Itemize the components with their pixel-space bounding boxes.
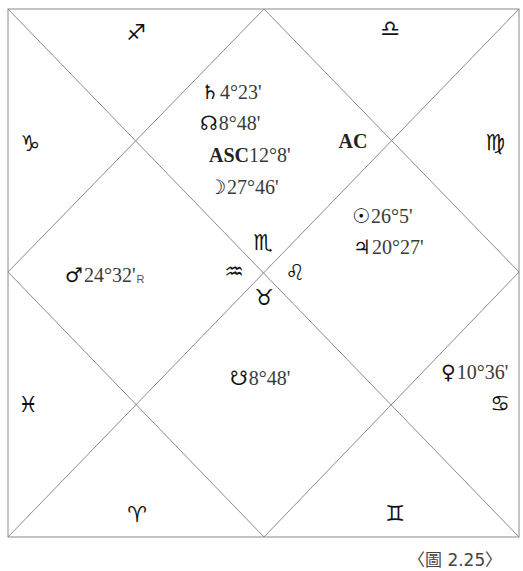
figure-caption: 〈圖 2.25〉 — [408, 546, 502, 571]
moon-icon: ☽ — [208, 175, 226, 199]
leo-sign-icon: ♌ — [285, 262, 305, 284]
rahu-entry: ☊8°48' — [200, 113, 260, 133]
mars-position: 24°32' — [84, 264, 136, 286]
aries-sign-icon: ♈ — [127, 504, 147, 526]
rahu-position: 8°48' — [219, 112, 261, 134]
ketu-icon: ☋ — [230, 366, 248, 390]
ascendant-entry: ASC12°8' — [209, 145, 291, 165]
jupiter-icon: ♃ — [353, 235, 371, 259]
sagittarius-sign-icon: ♐ — [126, 22, 146, 44]
moon-entry: ☽27°46' — [208, 177, 279, 197]
ac-label: AC — [339, 130, 368, 153]
venus-entry: ♀10°36' — [441, 362, 508, 382]
taurus-sign-icon: ♉ — [254, 287, 274, 309]
venus-position: 10°36' — [457, 361, 509, 383]
saturn-entry: ♄4°23' — [201, 82, 262, 102]
libra-sign-icon: ♎ — [380, 18, 400, 40]
mars-entry: ♂24°32'R — [65, 265, 145, 285]
moon-position: 27°46' — [227, 176, 279, 198]
rahu-icon: ☊ — [200, 111, 218, 135]
ketu-entry: ☋8°48' — [230, 368, 290, 388]
retrograde-marker: R — [137, 273, 145, 285]
cancer-sign-icon: ♋ — [490, 393, 510, 415]
aquarius-sign-icon: ♒ — [224, 261, 244, 283]
scorpio-sign-icon: ♏ — [253, 232, 273, 254]
jupiter-position: 20°27' — [372, 236, 424, 258]
sun-icon: ☉ — [352, 204, 370, 228]
saturn-icon: ♄ — [201, 80, 219, 104]
gemini-sign-icon: ♊ — [385, 503, 405, 525]
venus-icon: ♀ — [441, 360, 456, 384]
saturn-position: 4°23' — [220, 81, 262, 103]
asc-label: ASC — [209, 144, 249, 166]
sun-entry: ☉26°5' — [352, 206, 413, 226]
jupiter-entry: ♃20°27' — [353, 237, 424, 257]
sun-position: 26°5' — [371, 205, 413, 227]
virgo-sign-icon: ♍ — [485, 132, 505, 154]
pisces-sign-icon: ♓ — [18, 394, 38, 416]
ascendant-position: 12°8' — [249, 144, 291, 166]
capricorn-sign-icon: ♑ — [20, 133, 40, 155]
mars-icon: ♂ — [65, 263, 83, 287]
ketu-position: 8°48' — [249, 367, 291, 389]
